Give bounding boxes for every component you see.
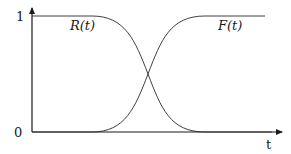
reliability-chart: 1 0 t R(t) F(t) [0,0,291,154]
f-curve-label: F(t) [217,18,242,33]
f-curve [32,16,265,132]
x-axis-label: t [266,137,272,152]
y-tick-one: 1 [16,9,24,24]
r-curve-label: R(t) [69,18,95,33]
y-tick-zero: 0 [14,125,22,140]
r-curve [32,16,272,132]
